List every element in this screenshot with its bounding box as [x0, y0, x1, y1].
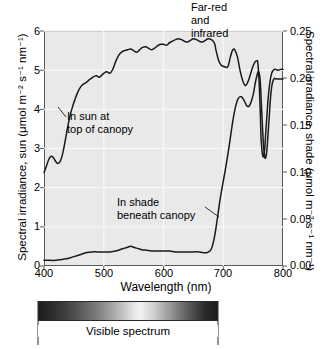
annotation-in-sun-line2: top of canopy	[67, 123, 133, 136]
annotation-in-sun-line1: In sun at	[67, 110, 133, 123]
gridlines	[44, 31, 283, 266]
chart-svg	[0, 0, 335, 349]
annotation-far-red-line1: Far-red	[191, 1, 228, 14]
xtick-600: 600	[147, 268, 181, 279]
xtick-800: 800	[266, 268, 300, 279]
xtick-500: 500	[87, 268, 121, 279]
annotation-in-shade-line2: beneath canopy	[117, 209, 195, 222]
annotation-far-red-line3: infrared	[191, 27, 228, 40]
leader-line-shade	[205, 207, 219, 217]
annotation-in-shade-line1: In shade	[117, 196, 195, 209]
spectral-irradiance-figure: 6 5 4 3 2 1 0 0.25 0.20 0.15 0.10 0.05 0…	[0, 0, 335, 349]
y-axis-right-title: Spectral irradiance, shade (μmol m⁻² s⁻¹…	[303, 31, 317, 263]
visible-spectrum-caption: Visible spectrum	[38, 325, 218, 337]
leader-line-sun	[58, 107, 66, 117]
xtick-700: 700	[206, 268, 240, 279]
annotation-far-red-line2: and	[191, 14, 228, 27]
visible-spectrum-bar	[38, 301, 218, 321]
xtick-400: 400	[27, 268, 61, 279]
annotation-in-shade: In shade beneath canopy	[117, 196, 195, 222]
x-axis-title: Wavelength (nm)	[76, 280, 256, 294]
y-axis-left-title: Spectral irradiance, sun (μmol m⁻² s⁻¹ n…	[15, 31, 29, 263]
annotation-in-sun: In sun at top of canopy	[67, 110, 133, 136]
annotation-far-red-infrared: Far-red and infrared	[191, 1, 228, 40]
